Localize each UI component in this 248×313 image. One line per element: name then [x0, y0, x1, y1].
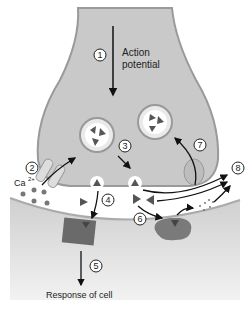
ca-label: Ca: [14, 178, 26, 188]
svg-text:2: 2: [29, 163, 34, 173]
action-label-1: Action: [122, 47, 150, 58]
vesicle-2: [138, 105, 172, 139]
svg-text:5: 5: [93, 261, 98, 271]
ca-superscript: 2+: [28, 176, 35, 182]
action-label-2: potential: [122, 59, 160, 70]
postsynaptic-receptor: [62, 217, 96, 245]
vesicle-1: [80, 118, 114, 152]
svg-text:6: 6: [137, 214, 142, 224]
svg-text:1: 1: [97, 50, 102, 60]
synapse-diagram: 1 Action potential 3 7 2 Ca 2+: [0, 0, 248, 313]
svg-text:4: 4: [105, 195, 110, 205]
postsynaptic-cell: [10, 198, 240, 300]
svg-text:8: 8: [235, 163, 240, 173]
response-label: Response of cell: [46, 290, 113, 300]
svg-text:3: 3: [122, 141, 127, 151]
svg-text:7: 7: [197, 140, 202, 150]
